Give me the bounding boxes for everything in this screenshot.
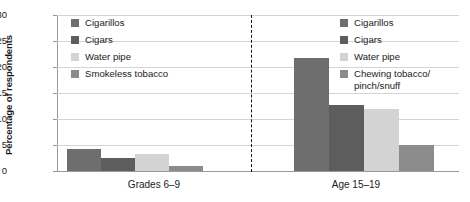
legend-left-label: Cigarillos — [85, 17, 124, 29]
legend-left-item[interactable]: Water pipe — [71, 51, 168, 63]
y-tick-label-20: 20 — [0, 62, 7, 72]
tick-mark-10 — [53, 119, 57, 120]
legend-right-item[interactable]: Cigars — [340, 34, 430, 46]
y-tick-label-30: 30 — [0, 10, 7, 20]
legend-right-label: Water pipe — [354, 51, 400, 63]
legend-right-item[interactable]: Cigarillos — [340, 17, 430, 29]
legend-swatch-icon — [340, 36, 348, 44]
legend-swatch-icon — [340, 19, 348, 27]
y-tick-label-0: 0 — [0, 166, 7, 176]
legend-swatch-icon — [71, 19, 79, 27]
bar — [399, 145, 434, 171]
gridline-30 — [57, 15, 459, 16]
legend-left-label: Smokeless tobacco — [85, 68, 168, 80]
legend-left-label: Cigars — [85, 34, 113, 46]
bar — [101, 158, 135, 171]
group-label-grades-6-9: Grades 6–9 — [57, 180, 251, 190]
legend-right: CigarillosCigarsWater pipeChewing tobacc… — [340, 17, 430, 97]
bar — [135, 154, 169, 171]
tick-mark-5 — [53, 145, 57, 146]
bar — [364, 109, 399, 171]
legend-right-item[interactable]: Chewing tobacco/ pinch/snuff — [340, 68, 430, 91]
legend-swatch-icon — [340, 70, 348, 78]
bar — [169, 166, 203, 171]
legend-left-item[interactable]: Cigarillos — [71, 17, 168, 29]
legend-swatch-icon — [71, 36, 79, 44]
legend-right-label: Chewing tobacco/ pinch/snuff — [354, 68, 430, 91]
group-label-age-15-19: Age 15–19 — [253, 180, 459, 190]
legend-right-label: Cigarillos — [354, 17, 393, 29]
legend-right-label: Cigars — [354, 34, 382, 46]
tick-mark-0 — [53, 171, 57, 172]
legend-right-item[interactable]: Water pipe — [340, 51, 430, 63]
x-axis-line — [57, 171, 459, 172]
y-tick-label-5: 5 — [0, 140, 7, 150]
group-divider — [251, 15, 252, 172]
tick-mark-20 — [53, 67, 57, 68]
tick-mark-25 — [53, 41, 57, 42]
y-tick-label-25: 25 — [0, 36, 7, 46]
legend-swatch-icon — [71, 53, 79, 61]
legend-swatch-icon — [340, 53, 348, 61]
legend-left: CigarillosCigarsWater pipeSmokeless toba… — [71, 17, 168, 85]
y-tick-label-10: 10 — [0, 114, 7, 124]
legend-left-label: Water pipe — [85, 51, 131, 63]
tick-mark-15 — [53, 93, 57, 94]
y-tick-label-15: 15 — [0, 88, 7, 98]
bar — [67, 149, 101, 171]
legend-left-item[interactable]: Cigars — [71, 34, 168, 46]
legend-swatch-icon — [71, 70, 79, 78]
tick-mark-30 — [53, 15, 57, 16]
bar-chart: Percentage of respondents 302520151050 G… — [0, 0, 470, 202]
legend-left-item[interactable]: Smokeless tobacco — [71, 68, 168, 80]
bar — [294, 58, 329, 171]
bar — [329, 105, 364, 171]
